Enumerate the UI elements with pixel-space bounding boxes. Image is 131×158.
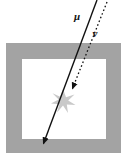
figure-root: μ ν (0, 0, 131, 158)
physics-diagram: μ ν (0, 0, 131, 158)
neutrino-label: ν (93, 27, 98, 39)
muon-label: μ (73, 10, 80, 22)
